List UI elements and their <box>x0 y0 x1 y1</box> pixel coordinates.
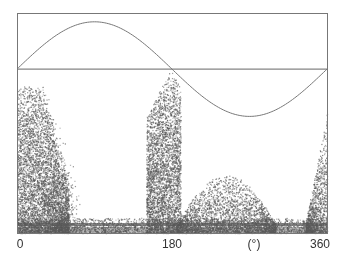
x-tick-360: 360 <box>310 237 330 251</box>
x-axis-unit-label: (°) <box>248 237 261 251</box>
x-tick-0: 0 <box>17 237 24 251</box>
density-scatter-plot <box>0 0 345 261</box>
x-tick-180: 180 <box>162 237 182 251</box>
